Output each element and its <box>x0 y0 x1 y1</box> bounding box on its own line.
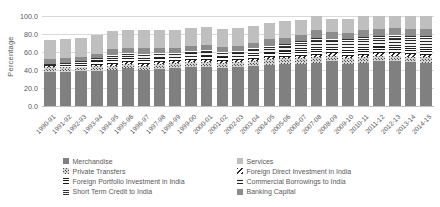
legend-item[interactable]: Commercial Borrowings to India <box>237 176 351 186</box>
bar-segment <box>295 64 307 106</box>
bar-segment <box>248 61 260 66</box>
legend-swatch-icon <box>237 168 243 174</box>
bar-stack <box>185 28 197 106</box>
bar-segment <box>420 29 432 36</box>
bar-segment <box>44 66 56 67</box>
bar-segment <box>248 26 260 43</box>
bar-stack <box>217 29 229 106</box>
bar-segment <box>91 59 103 61</box>
bar-segment <box>342 39 354 42</box>
bar-segment <box>326 32 338 38</box>
bar-segment <box>138 59 150 64</box>
bar-segment <box>326 48 338 53</box>
bar-segment <box>326 19 338 33</box>
bar-segment <box>185 28 197 46</box>
bar-segment <box>264 65 276 106</box>
bar-segment <box>44 67 56 72</box>
legend-label: Commercial Borrowings to India <box>247 178 346 185</box>
legend-column-right: ServicesForeign Direct Investment in Ind… <box>237 156 351 197</box>
bar-segment <box>107 31 119 49</box>
legend-item[interactable]: Private Transfers <box>63 166 185 176</box>
bar-segment <box>138 66 150 71</box>
bar-segment <box>389 61 401 106</box>
bar-segment <box>138 70 150 106</box>
bar-stack <box>248 26 260 106</box>
bar-segment <box>138 56 150 60</box>
bar-segment <box>389 28 401 35</box>
bar-segment <box>75 57 87 62</box>
bar-segment <box>311 55 323 58</box>
bar-segment <box>138 64 150 66</box>
bar-segment <box>326 53 338 56</box>
bar-segment <box>44 64 56 65</box>
bar-segment <box>405 54 417 57</box>
bar-segment <box>185 62 197 67</box>
bar-segment <box>264 53 276 58</box>
bar-segment <box>342 48 354 55</box>
bar-segment <box>264 57 276 59</box>
bar-segment <box>232 67 244 106</box>
bar-segment <box>122 68 134 106</box>
bar-segment <box>342 19 354 33</box>
bar-segment <box>420 57 432 62</box>
bar-stack <box>201 27 213 106</box>
legend-swatch-icon <box>237 178 243 184</box>
bar-segment <box>342 56 354 59</box>
legend-column-left: MerchandisePrivate TransfersForeign Port… <box>63 156 185 197</box>
bar-stack <box>44 40 56 106</box>
bar-segment <box>279 21 291 37</box>
bar-segment <box>295 56 307 59</box>
bar-segment <box>91 61 103 65</box>
bar-segment <box>122 53 134 55</box>
bar-segment <box>358 40 370 47</box>
bar-segment <box>122 64 134 69</box>
legend-label: Services <box>247 158 274 165</box>
bar-segment <box>373 29 385 36</box>
bar-stack <box>232 28 244 106</box>
bar-segment <box>326 39 338 42</box>
bar-segment <box>342 58 354 63</box>
stacked-bar-chart: Percentage 0.020.040.060.080.0100.0 1990… <box>0 0 440 207</box>
bar-segment <box>185 51 197 53</box>
bar-segment <box>44 40 56 59</box>
bar-segment <box>358 37 370 41</box>
bar-segment <box>201 27 213 45</box>
bar-segment <box>232 60 244 62</box>
bar-segment <box>342 33 354 39</box>
bar-segment <box>311 38 323 42</box>
bar-segment <box>373 61 385 106</box>
bar-segment <box>405 16 417 29</box>
legend-item[interactable]: Merchandise <box>63 156 185 166</box>
bar-segment <box>420 63 432 106</box>
bar-stack <box>358 16 370 106</box>
bar-segment <box>201 56 213 61</box>
bar-segment <box>420 48 432 55</box>
bar-segment <box>122 55 134 58</box>
bar-segment <box>405 39 417 46</box>
bar-segment <box>217 63 229 68</box>
bar-segment <box>405 62 417 106</box>
bar-segment <box>420 39 432 47</box>
bar-segment <box>201 45 213 50</box>
bar-segment <box>373 53 385 56</box>
bar-segment <box>122 48 134 53</box>
legend-item[interactable]: Foreign Direct Investment in India <box>237 166 351 176</box>
bar-segment <box>154 30 166 48</box>
bar-segment <box>311 57 323 62</box>
legend-item[interactable]: Banking Capital <box>237 187 351 197</box>
bar-stack <box>122 30 134 106</box>
legend-item[interactable]: Short Term Credit to India <box>63 187 185 197</box>
bar-segment <box>420 16 432 29</box>
bar-segment <box>169 58 181 61</box>
bar-segment <box>326 56 338 61</box>
legend-item[interactable]: Services <box>237 156 351 166</box>
bar-segment <box>248 54 260 59</box>
bar-segment <box>248 43 260 48</box>
bar-segment <box>264 39 276 45</box>
y-axis-tick: 60.0 <box>0 48 38 57</box>
bar-segment <box>248 50 260 54</box>
legend-item[interactable]: Foreign Portfolio Investment in India <box>63 176 185 186</box>
bar-segment <box>217 68 229 106</box>
y-axis-tick: 20.0 <box>0 84 38 93</box>
chart-legend: MerchandisePrivate TransfersForeign Port… <box>0 156 440 204</box>
